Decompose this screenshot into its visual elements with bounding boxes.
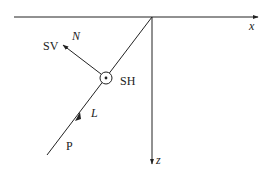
sv-label: SV [43,39,59,53]
z-axis-label: z [155,153,161,167]
l-label: L [90,106,98,120]
sh-dot-icon [105,77,108,80]
p-label: P [66,139,73,153]
sv-vector [63,45,101,74]
ray-line [47,17,152,155]
sh-label: SH [120,74,136,88]
x-axis-label: x [248,19,255,33]
n-label: N [71,29,81,43]
wave-polarization-diagram: x z SV N SH L P [0,0,271,172]
